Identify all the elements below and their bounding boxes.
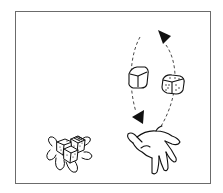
plain-die-icon xyxy=(129,67,148,88)
arc-arrow-bottom-icon xyxy=(132,110,144,124)
illustration-drawing xyxy=(0,0,223,193)
dice-pile-icon xyxy=(47,136,92,172)
dotted-die-icon xyxy=(162,75,184,94)
arc-arrow-top-icon xyxy=(158,30,171,44)
illustration-canvas: hand tossing dice in a circular arc, pil… xyxy=(0,0,223,193)
tossing-hand-icon xyxy=(128,126,180,174)
